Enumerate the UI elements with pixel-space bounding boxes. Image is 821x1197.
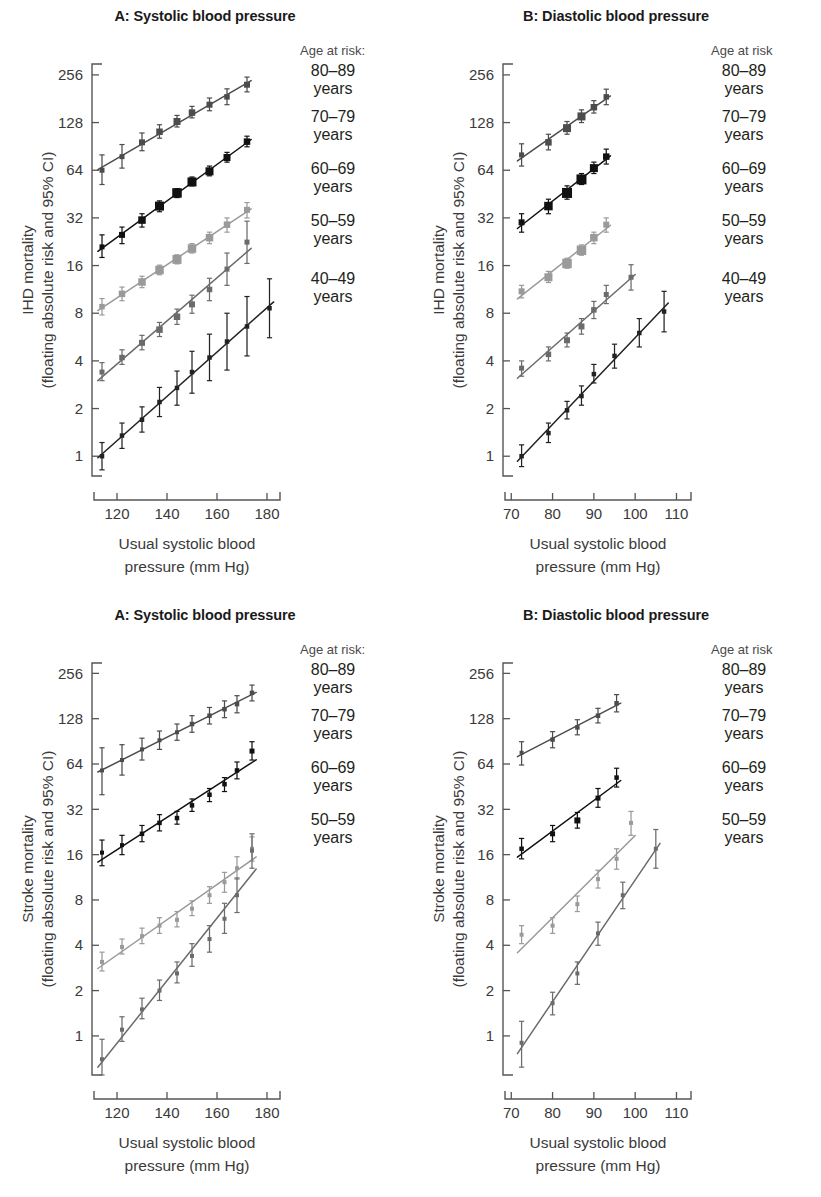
data-point-marker xyxy=(603,153,610,160)
x-axis-tick-label: 100 xyxy=(623,505,648,522)
y-axis-tick-label: 16 xyxy=(66,257,83,274)
data-point-marker xyxy=(604,94,610,100)
y-axis-label-line1: IHD mortality xyxy=(18,64,38,476)
y-axis-label: IHD mortality(floating absolute risk and… xyxy=(429,64,469,476)
data-point-marker xyxy=(662,309,667,314)
series-fit-line xyxy=(517,703,620,756)
data-point-marker xyxy=(155,202,164,211)
series-fit-line xyxy=(517,843,660,1053)
series-80-89-years xyxy=(98,77,251,184)
y-axis-tick-label: 256 xyxy=(58,665,83,682)
y-axis-tick-label: 4 xyxy=(486,352,494,369)
legend-item-unit: years xyxy=(304,178,362,196)
legend-title: Age at risk xyxy=(711,642,772,657)
legend-item-range: 50–59 xyxy=(715,811,773,829)
data-point-marker xyxy=(156,129,163,136)
data-point-marker xyxy=(208,893,212,897)
legend-item-range: 40–49 xyxy=(715,270,773,288)
x-axis-tick-label: 70 xyxy=(503,505,520,522)
data-point-marker xyxy=(155,266,164,275)
legend-item-40-49: 40–49years xyxy=(715,270,773,306)
data-point-marker xyxy=(140,1007,144,1011)
data-point-marker xyxy=(519,454,524,459)
data-point-marker xyxy=(576,174,586,184)
data-point-marker xyxy=(175,918,179,922)
x-axis-tick-label: 180 xyxy=(254,1104,279,1121)
data-point-marker xyxy=(235,893,239,897)
y-axis-tick-label: 8 xyxy=(75,304,83,321)
data-point-marker xyxy=(235,866,239,870)
x-axis-tick-label: 120 xyxy=(104,1104,129,1121)
data-point-marker xyxy=(562,259,572,269)
legend-item-unit: years xyxy=(304,126,362,144)
legend-item-unit: years xyxy=(304,230,362,248)
data-point-marker xyxy=(99,304,105,310)
data-point-marker xyxy=(190,954,194,958)
data-point-marker xyxy=(629,275,634,280)
y-axis-tick-label: 256 xyxy=(58,66,83,83)
series-group xyxy=(98,77,274,470)
data-point-marker xyxy=(550,831,555,836)
x-axis-tick-label: 90 xyxy=(586,505,603,522)
x-axis-tick-label: 110 xyxy=(665,1104,689,1121)
data-point-marker xyxy=(545,139,552,146)
data-point-marker xyxy=(207,102,213,108)
panel-ihd-diastolic: B: Diastolic blood pressure1248163264128… xyxy=(411,0,821,598)
legend-item-range: 80–89 xyxy=(304,661,362,679)
data-point-marker xyxy=(550,737,555,742)
legend-item-60-69: 60–69years xyxy=(715,160,773,196)
data-point-marker xyxy=(120,758,124,762)
x-axis-label-line1: Usual systolic blood xyxy=(72,532,302,555)
legend-item-40-49: 40–49years xyxy=(304,270,362,306)
data-point-marker xyxy=(520,751,524,755)
data-point-marker xyxy=(577,245,587,255)
data-point-marker xyxy=(519,847,524,852)
legend-title: Age at risk: xyxy=(300,642,365,657)
x-axis-tick-label: 120 xyxy=(104,505,129,522)
legend-item-70-79: 70–79years xyxy=(304,707,362,743)
legend-item-70-79: 70–79years xyxy=(715,707,773,743)
y-axis-tick-label: 8 xyxy=(486,891,494,908)
legend-item-range: 70–79 xyxy=(715,707,773,725)
data-point-marker xyxy=(596,931,600,935)
panel-stroke-diastolic: B: Diastolic blood pressure1248163264128… xyxy=(411,599,821,1197)
x-axis-tick-label: 70 xyxy=(503,1104,520,1121)
data-point-marker xyxy=(614,701,619,706)
y-axis-tick-label: 2 xyxy=(75,982,83,999)
data-point-marker xyxy=(629,821,633,825)
data-point-marker xyxy=(120,433,125,438)
data-point-marker xyxy=(224,154,231,161)
y-axis-tick-label: 1 xyxy=(486,1027,494,1044)
data-point-marker xyxy=(175,971,179,975)
data-point-marker xyxy=(207,713,212,718)
data-point-marker xyxy=(563,124,571,132)
data-point-marker xyxy=(544,273,552,281)
series-70-79-years xyxy=(517,768,620,859)
data-point-marker xyxy=(574,817,580,823)
data-point-marker xyxy=(519,152,524,157)
legend-item-unit: years xyxy=(304,725,362,743)
legend-item-unit: years xyxy=(715,230,773,248)
legend-item-unit: years xyxy=(715,80,773,98)
data-point-marker xyxy=(188,244,197,253)
data-point-marker xyxy=(235,702,240,707)
legend-item-70-79: 70–79years xyxy=(715,108,773,144)
y-axis-tick-label: 64 xyxy=(477,755,494,772)
data-point-marker xyxy=(207,287,213,293)
data-point-marker xyxy=(208,937,212,941)
data-point-marker xyxy=(120,154,125,159)
y-axis-label-line2: (floating absolute risk and 95% CI) xyxy=(449,64,469,476)
data-point-marker xyxy=(544,202,553,211)
series-60-69-years xyxy=(98,203,251,315)
y-axis-tick-label: 2 xyxy=(486,400,494,417)
legend-item-60-69: 60–69years xyxy=(715,759,773,795)
data-point-marker xyxy=(520,1041,524,1045)
legend-item-range: 40–49 xyxy=(304,270,362,288)
legend-item-50-59: 50–59years xyxy=(715,212,773,248)
y-axis-label: Stroke mortality(floating absolute risk … xyxy=(18,663,58,1075)
series-50-59-years xyxy=(517,830,660,1068)
data-point-marker xyxy=(578,323,584,329)
data-point-marker xyxy=(519,288,525,294)
x-axis-tick-label: 180 xyxy=(254,505,279,522)
data-point-marker xyxy=(174,314,181,321)
